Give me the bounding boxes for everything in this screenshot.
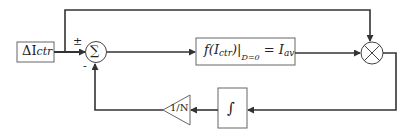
feedback-line <box>95 64 163 110</box>
function-rhs: = I <box>264 42 284 57</box>
gain-label: 1/N <box>170 102 188 113</box>
function-rhs-subscript: av <box>284 48 294 58</box>
diagram-canvas <box>0 0 414 134</box>
minus-sign: - <box>83 60 87 73</box>
input-label-main: ΔI <box>22 43 37 58</box>
function-subscript: ctr <box>219 48 232 58</box>
sum-symbol: ∑ <box>90 43 99 58</box>
function-eval-subscript: D=0 <box>241 53 259 62</box>
multiplier-junction <box>361 42 383 64</box>
plus-minus-sign: ± <box>73 35 82 48</box>
input-label: ΔIctr <box>22 43 52 58</box>
input-label-subscript: ctr <box>37 45 53 58</box>
integrator-symbol: ∫ <box>227 99 235 117</box>
function-prefix: f(I <box>204 42 219 57</box>
function-label: f(Ictr)|D=0 = Iav <box>204 42 294 62</box>
